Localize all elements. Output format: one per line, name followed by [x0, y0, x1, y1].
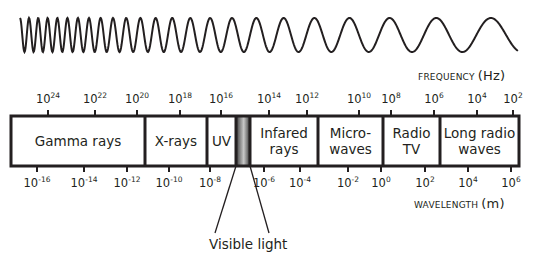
tick-base: 10	[424, 92, 439, 106]
tick-base: 10	[168, 92, 183, 106]
tick-exponent: -12	[128, 175, 140, 184]
tick-exponent: 20	[140, 91, 150, 100]
tick-exponent: 0	[386, 175, 391, 184]
tick-base: 10	[156, 176, 171, 190]
tick-base: 10	[83, 92, 98, 106]
tick-base: 10	[295, 92, 310, 106]
tick-exponent: -14	[85, 175, 97, 184]
tick-base: 10	[381, 92, 396, 106]
tick-exponent: -8	[214, 175, 221, 184]
band-label: Long radiowaves	[444, 125, 515, 157]
tick-base: 10	[199, 176, 214, 190]
wavelength-tick-label: 10-10	[156, 175, 183, 190]
tick-exponent: 24	[51, 91, 61, 100]
tick-exponent: 10	[362, 91, 372, 100]
tick-exponent: 4	[473, 175, 478, 184]
tick-exponent: 22	[98, 91, 108, 100]
wavelength-tick-label: 10-8	[199, 175, 221, 190]
wavelength-tick-label: 106	[501, 175, 520, 190]
band-label: RadioTV	[393, 125, 431, 157]
wavelength-tick-label: 10-14	[71, 175, 98, 190]
frequency-tick-label: 1010	[347, 91, 371, 106]
tick-base: 10	[347, 92, 362, 106]
frequency-tick-label: 1022	[83, 91, 107, 106]
tick-exponent: 18	[183, 91, 193, 100]
wavelength-tick-label: 100	[371, 175, 390, 190]
tick-base: 10	[371, 176, 386, 190]
frequency-label-text: FREQUENCY	[418, 72, 475, 82]
tick-exponent: 6	[439, 91, 444, 100]
frequency-tick-label: 102	[503, 91, 522, 106]
frequency-tick-label: 1024	[36, 91, 60, 106]
wavelength-tick-label: 10-12	[114, 175, 141, 190]
tick-base: 10	[257, 92, 272, 106]
wave-path	[20, 18, 518, 52]
tick-base: 10	[253, 176, 268, 190]
wavelength-tick-label: 10-2	[337, 175, 359, 190]
tick-exponent: 14	[272, 91, 282, 100]
tick-base: 10	[125, 92, 140, 106]
tick-base: 10	[36, 92, 51, 106]
tick-exponent: 4	[482, 91, 487, 100]
tick-exponent: -4	[304, 175, 311, 184]
tick-exponent: 16	[224, 91, 234, 100]
tick-base: 10	[415, 176, 430, 190]
wavelength-tick-label: 102	[415, 175, 434, 190]
tick-exponent: 12	[310, 91, 320, 100]
tick-base: 10	[71, 176, 86, 190]
visible-light-label: Visible light	[209, 236, 287, 252]
visible-light-band	[236, 116, 250, 166]
tick-exponent: -6	[268, 175, 275, 184]
wavelength-label-text: WAVELENGTH	[414, 200, 478, 210]
band-label: UV	[212, 133, 231, 149]
frequency-tick-label: 106	[424, 91, 443, 106]
band-label: X-rays	[155, 133, 197, 149]
wavelength-tick-label: 10-16	[24, 175, 51, 190]
band-label: Gamma rays	[35, 133, 121, 149]
tick-base: 10	[467, 92, 482, 106]
frequency-axis-label: FREQUENCY (Hz)	[418, 68, 505, 83]
frequency-tick-label: 1020	[125, 91, 149, 106]
tick-exponent: -10	[170, 175, 182, 184]
tick-exponent: 2	[430, 175, 435, 184]
tick-base: 10	[501, 176, 516, 190]
wavelength-axis-label: WAVELENGTH (m)	[414, 196, 505, 211]
frequency-tick-label: 104	[467, 91, 486, 106]
wavelength-tick-label: 10-4	[289, 175, 311, 190]
tick-exponent: 8	[396, 91, 401, 100]
tick-base: 10	[24, 176, 39, 190]
tick-base: 10	[209, 92, 224, 106]
frequency-tick-label: 1016	[209, 91, 233, 106]
tick-exponent: 2	[518, 91, 523, 100]
wavelength-unit: (m)	[481, 196, 504, 211]
tick-base: 10	[289, 176, 304, 190]
band-label: Infaredrays	[260, 125, 308, 157]
tick-exponent: -16	[38, 175, 50, 184]
tick-base: 10	[114, 176, 129, 190]
band-label: Micro-waves	[329, 125, 372, 157]
wavelength-tick-label: 10-6	[253, 175, 275, 190]
wavelength-tick-label: 104	[458, 175, 477, 190]
tick-base: 10	[503, 92, 518, 106]
tick-exponent: -2	[352, 175, 359, 184]
frequency-tick-label: 108	[381, 91, 400, 106]
frequency-tick-label: 1014	[257, 91, 281, 106]
tick-base: 10	[458, 176, 473, 190]
frequency-unit: (Hz)	[478, 68, 506, 83]
tick-base: 10	[337, 176, 352, 190]
frequency-tick-label: 1012	[295, 91, 319, 106]
tick-exponent: 6	[516, 175, 521, 184]
frequency-tick-label: 1018	[168, 91, 192, 106]
